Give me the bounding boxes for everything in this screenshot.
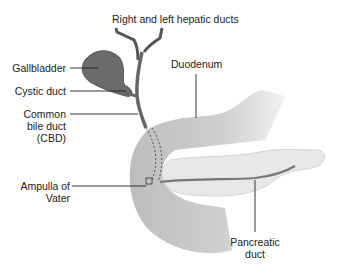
label-hepatic-ducts: Right and left hepatic ducts	[112, 13, 239, 25]
gallbladder-shape	[82, 51, 132, 97]
hepatic-duct-right	[116, 28, 138, 60]
label-ampulla-line2: Vater	[46, 192, 70, 204]
label-gallbladder: Gallbladder	[12, 62, 66, 74]
hepatic-duct-left	[144, 28, 162, 52]
label-cbd-line3: (CBD)	[37, 132, 66, 144]
label-ampulla-line1: Ampulla of	[20, 180, 70, 192]
label-duodenum: Duodenum	[171, 58, 222, 70]
label-pancreatic-line1: Pancreatic	[227, 236, 283, 248]
label-cbd-line2: bile duct	[27, 120, 66, 132]
pancreas-shape	[162, 150, 325, 197]
label-pancreatic-line2: duct	[227, 248, 283, 260]
label-cbd-line1: Common	[23, 108, 66, 120]
biliary-anatomy-diagram: Right and left hepatic ducts Gallbladder…	[0, 0, 337, 269]
label-cystic-duct: Cystic duct	[15, 85, 66, 97]
common-bile-duct	[137, 52, 146, 128]
